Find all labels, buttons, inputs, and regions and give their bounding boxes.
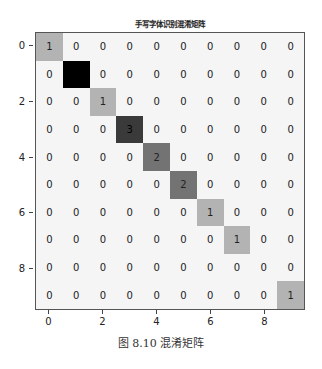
matrix-cell: 0 xyxy=(250,88,277,116)
matrix-cell: 0 xyxy=(197,281,224,309)
matrix-cell: 0 xyxy=(224,254,251,282)
matrix-cell: 0 xyxy=(250,171,277,199)
y-tick: 4 xyxy=(0,151,33,163)
matrix-cell: 0 xyxy=(116,226,143,254)
matrix-cell: 0 xyxy=(143,199,170,227)
matrix-cell: 0 xyxy=(197,33,224,61)
matrix-cell: 0 xyxy=(143,88,170,116)
matrix-cell: 0 xyxy=(116,88,143,116)
matrix-cell: 0 xyxy=(63,281,90,309)
matrix-cell: 0 xyxy=(63,116,90,144)
matrix-cell: 0 xyxy=(116,199,143,227)
matrix-cell: 3 xyxy=(116,116,143,144)
matrix-cell: 0 xyxy=(63,171,90,199)
matrix-cell: 1 xyxy=(277,281,304,309)
matrix-cell: 0 xyxy=(197,171,224,199)
matrix-cell: 0 xyxy=(224,171,251,199)
matrix-cell: 0 xyxy=(170,61,197,89)
matrix-cell: 0 xyxy=(197,143,224,171)
matrix-cell: 0 xyxy=(90,143,117,171)
matrix-cell: 0 xyxy=(143,61,170,89)
matrix-cell: 0 xyxy=(116,33,143,61)
matrix-cell: 0 xyxy=(36,281,63,309)
matrix-cell: 0 xyxy=(170,254,197,282)
matrix-cell: 0 xyxy=(143,281,170,309)
matrix-cell: 0 xyxy=(224,143,251,171)
matrix-cell: 0 xyxy=(250,254,277,282)
x-tick: 2 xyxy=(93,310,113,327)
matrix-cell: 0 xyxy=(277,116,304,144)
matrix-cell: 0 xyxy=(277,171,304,199)
matrix-cell: 0 xyxy=(90,226,117,254)
matrix-cell: 2 xyxy=(170,171,197,199)
matrix-cell: 0 xyxy=(224,199,251,227)
matrix-cell: 0 xyxy=(143,116,170,144)
matrix-cell: 0 xyxy=(224,116,251,144)
chart-title: 手写字体识别混淆矩阵 xyxy=(35,18,305,29)
matrix-cell: 0 xyxy=(90,254,117,282)
matrix-cell: 4 xyxy=(63,61,90,89)
matrix-cell: 0 xyxy=(90,33,117,61)
matrix-cell: 0 xyxy=(170,88,197,116)
matrix-cell: 0 xyxy=(36,116,63,144)
matrix-cell: 0 xyxy=(197,254,224,282)
matrix-cell: 0 xyxy=(277,61,304,89)
matrix-cell: 0 xyxy=(277,88,304,116)
matrix-cell: 0 xyxy=(63,143,90,171)
matrix-cell: 1 xyxy=(224,226,251,254)
y-tick: 8 xyxy=(0,262,33,274)
matrix-cell: 0 xyxy=(250,61,277,89)
matrix-cell: 0 xyxy=(143,171,170,199)
matrix-cell: 0 xyxy=(170,116,197,144)
matrix-cell: 0 xyxy=(116,281,143,309)
x-tick: 4 xyxy=(147,310,167,327)
matrix-cell: 0 xyxy=(63,88,90,116)
matrix-cell: 0 xyxy=(143,226,170,254)
matrix-cell: 0 xyxy=(224,61,251,89)
matrix-cell: 0 xyxy=(90,171,117,199)
matrix-cell: 0 xyxy=(170,281,197,309)
matrix-cell: 0 xyxy=(197,116,224,144)
matrix-cell: 0 xyxy=(170,199,197,227)
matrix-cell: 0 xyxy=(250,33,277,61)
matrix-cell: 1 xyxy=(197,199,224,227)
figure-caption: 图 8.10 混淆矩阵 xyxy=(0,334,322,350)
matrix-cell: 0 xyxy=(63,33,90,61)
matrix-cell: 0 xyxy=(277,33,304,61)
matrix-cell: 0 xyxy=(250,143,277,171)
matrix-cell: 0 xyxy=(90,61,117,89)
matrix-cell: 0 xyxy=(143,254,170,282)
matrix-cell: 0 xyxy=(90,281,117,309)
matrix-cell: 2 xyxy=(143,143,170,171)
matrix-cell: 0 xyxy=(116,254,143,282)
matrix-cell: 0 xyxy=(63,254,90,282)
y-tick: 6 xyxy=(0,207,33,219)
matrix-cell: 0 xyxy=(197,61,224,89)
matrix-cell: 0 xyxy=(143,33,170,61)
matrix-cell: 0 xyxy=(36,143,63,171)
matrix-cell: 0 xyxy=(36,88,63,116)
matrix-cell: 0 xyxy=(250,116,277,144)
matrix-cell: 0 xyxy=(224,88,251,116)
matrix-cell: 0 xyxy=(197,226,224,254)
matrix-cell: 0 xyxy=(250,226,277,254)
matrix-cell: 0 xyxy=(63,199,90,227)
matrix-cell: 0 xyxy=(36,171,63,199)
x-tick: 8 xyxy=(255,310,275,327)
matrix-cell: 0 xyxy=(36,226,63,254)
matrix-cell: 0 xyxy=(90,116,117,144)
matrix-cell: 0 xyxy=(224,281,251,309)
matrix-cell: 0 xyxy=(36,199,63,227)
matrix-cell: 0 xyxy=(277,226,304,254)
matrix-cell: 0 xyxy=(224,33,251,61)
matrix-cell: 0 xyxy=(36,61,63,89)
matrix-cell: 0 xyxy=(170,143,197,171)
matrix-cell: 0 xyxy=(116,171,143,199)
matrix-cell: 1 xyxy=(36,33,63,61)
matrix-cell: 0 xyxy=(170,226,197,254)
y-tick: 2 xyxy=(0,96,33,108)
x-tick: 6 xyxy=(201,310,221,327)
matrix-cell: 0 xyxy=(63,226,90,254)
matrix-cell: 0 xyxy=(197,88,224,116)
matrix-cell: 0 xyxy=(116,61,143,89)
